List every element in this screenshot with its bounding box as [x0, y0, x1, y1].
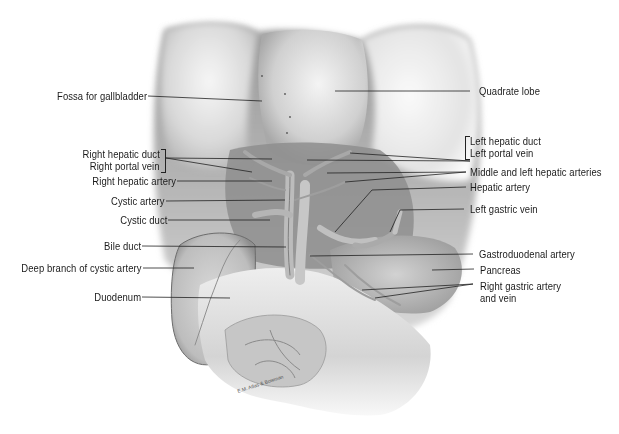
label-quadrate-lobe: Quadrate lobe — [479, 85, 540, 97]
right-bracket — [161, 149, 166, 173]
label-left-gastric-vein: Left gastric vein — [470, 203, 538, 215]
label-deep-branch-of-cystic-artery: Deep branch of cystic artery — [22, 262, 142, 274]
label-right-gastric-artery: Right gastric artery — [480, 280, 561, 292]
label-fossa-for-gallbladder: Fossa for gallbladder — [57, 90, 147, 102]
label-right-hepatic-duct: Right hepatic duct — [83, 148, 160, 160]
label-middle-and-left-hepatic-arteries: Middle and left hepatic arteries — [470, 166, 602, 178]
label-left-hepatic-duct: Left hepatic duct — [470, 135, 541, 147]
label-right-hepatic-artery: Right hepatic artery — [92, 175, 176, 187]
anatomy-illustration: E.M. Atlas & Bowman — [0, 0, 619, 434]
label-bile-duct: Bile duct — [104, 240, 141, 252]
label-gastroduodenal-artery: Gastroduodenal artery — [479, 248, 575, 260]
label-cystic-artery: Cystic artery — [111, 195, 165, 207]
label-duodenum: Duodenum — [94, 291, 141, 303]
label-pancreas: Pancreas — [480, 264, 521, 276]
label-left-portal-vein: Left portal vein — [470, 147, 533, 159]
label-right-portal-vein: Right portal vein — [90, 160, 160, 172]
label-right-gastric-and-vein: and vein — [480, 292, 516, 304]
label-hepatic-artery: Hepatic artery — [470, 181, 530, 193]
label-cystic-duct: Cystic duct — [120, 214, 167, 226]
